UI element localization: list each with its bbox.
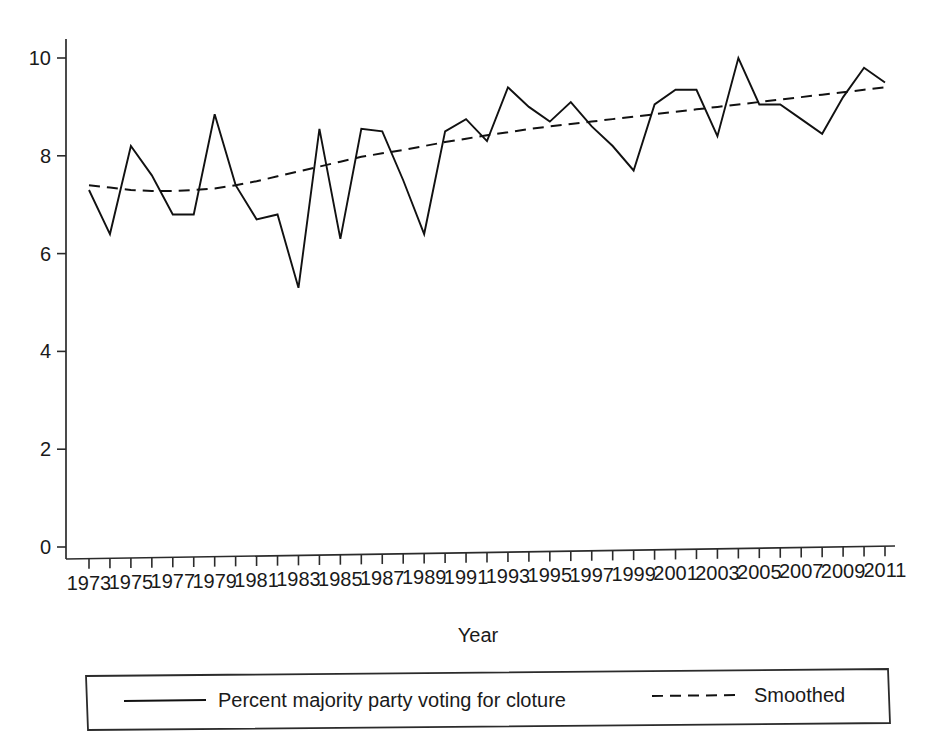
chart-figure: 0246810 19731975197719791981198319851987… (0, 0, 930, 743)
x-tick-label: 1981 (234, 569, 279, 591)
x-tick-label: 1979 (192, 570, 237, 592)
x-tick-label: 1985 (318, 568, 363, 590)
x-tick-label: 1987 (360, 567, 405, 589)
chart-legend: Percent majority party voting for clotur… (86, 669, 890, 730)
x-tick-label: 1997 (569, 564, 614, 586)
series-line-percent (89, 58, 885, 288)
legend-swatch-solid (124, 700, 206, 701)
x-tick-label: 1995 (528, 564, 573, 586)
y-tick-label: 6 (40, 243, 51, 265)
x-tick-label: 1973 (67, 572, 112, 594)
x-tick-label: 1989 (402, 566, 447, 588)
y-tick-label: 8 (40, 145, 51, 167)
x-tick-label: 2001 (653, 562, 698, 584)
x-axis-title-text: Year (458, 624, 499, 646)
y-tick-label: 0 (40, 536, 51, 558)
x-tick-label: 2003 (695, 562, 740, 584)
x-tick-label: 1983 (276, 568, 321, 590)
line-chart: 0246810 19731975197719791981198319851987… (0, 0, 930, 743)
y-tick-label: 2 (40, 438, 51, 460)
legend-swatch-dashed (652, 695, 740, 696)
x-tick-label: 2011 (863, 559, 906, 581)
x-axis-line (66, 546, 895, 559)
x-tick-label: 1999 (611, 563, 656, 585)
x-tick-label: 1993 (486, 565, 531, 587)
legend-label-smoothed: Smoothed (754, 684, 845, 706)
x-tick-label: 2007 (779, 560, 824, 582)
legend-label-percent: Percent majority party voting for clotur… (218, 689, 566, 711)
x-tick-label: 1977 (151, 570, 196, 592)
y-tick-label: 4 (40, 340, 51, 362)
x-tick-label: 1991 (444, 566, 489, 588)
x-axis-title: Year (458, 624, 499, 646)
data-series-group (89, 58, 885, 288)
x-tick-label: 2009 (821, 560, 866, 582)
y-tick-label: 10 (29, 47, 51, 69)
y-axis: 0246810 (29, 39, 66, 559)
x-tick-label: 2005 (737, 561, 782, 583)
x-axis: 1973197519771979198119831985198719891991… (66, 546, 907, 594)
x-tick-label: 1975 (109, 571, 154, 593)
